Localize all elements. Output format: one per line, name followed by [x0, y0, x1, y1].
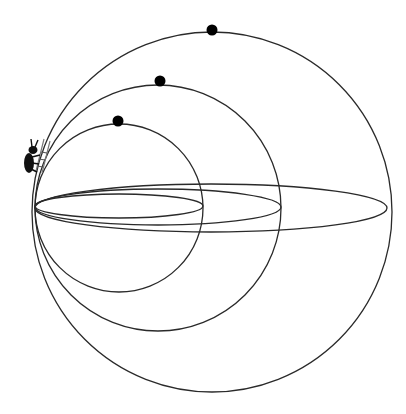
small-circle [35, 124, 203, 292]
nested-circles-diagram [0, 0, 406, 414]
medium-circle [35, 85, 281, 331]
diagram-stage: Three nested circles tangent at a common… [0, 0, 406, 414]
ant-icon [24, 139, 50, 173]
dots-group [113, 25, 218, 127]
medium-orbit-ellipse [35, 189, 281, 225]
large-dot [207, 25, 218, 36]
large-circle [32, 32, 392, 392]
orbits-group [35, 184, 387, 232]
medium-dot [155, 76, 166, 87]
small-dot [113, 116, 124, 127]
circles-group [32, 32, 392, 392]
small-orbit-ellipse [35, 194, 203, 218]
